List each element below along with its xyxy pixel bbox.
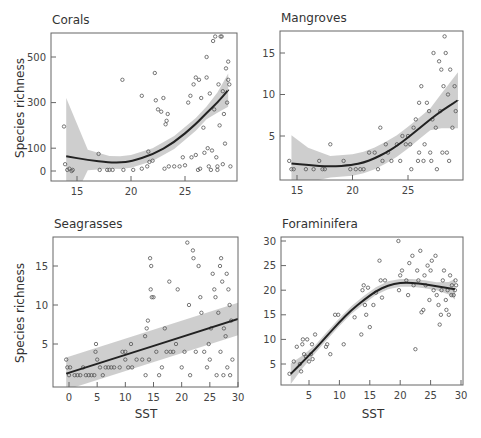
data-point [435,293,438,296]
data-point [397,289,400,292]
data-point [206,147,209,150]
data-point [188,374,191,377]
data-point [442,85,445,88]
data-point [414,348,417,351]
data-point [301,343,304,346]
y-tick-label: 30 [263,236,276,247]
data-point [213,288,216,291]
fit-line [66,319,238,374]
data-point [399,274,402,277]
data-point [215,156,218,159]
data-point [353,316,356,319]
data-point [164,123,167,126]
x-axis-label-right: SST [362,407,385,421]
data-point [449,68,452,71]
data-point [361,289,364,292]
data-point [435,168,438,171]
data-point [162,96,165,99]
data-point [301,338,304,341]
y-tick-label: 25 [263,260,276,271]
y-tick-label: 500 [27,52,46,63]
data-point [166,112,169,115]
data-point [227,60,230,63]
data-point [200,311,203,314]
y-axis-label-bottom: Species richness [13,263,27,363]
confidence-band [66,73,228,214]
data-point [366,286,369,289]
y-tick-label: 10 [263,334,276,345]
data-point [218,264,221,267]
data-point [379,279,382,282]
x-tick-label: 30 [232,392,245,403]
data-point [362,284,365,287]
data-point [148,257,151,260]
y-tick-label: 20 [263,285,276,296]
x-tick-label: 20 [394,390,407,401]
data-point [208,358,211,361]
data-point [399,159,402,162]
data-point [205,76,208,79]
data-point [441,151,444,154]
data-point [417,151,420,154]
x-tick-label: 10 [333,390,346,401]
data-point [411,254,414,257]
x-tick-label: 5 [306,390,312,401]
data-point [140,94,143,97]
x-tick-label: 20 [175,392,188,403]
data-point [217,83,220,86]
data-point [62,125,65,128]
data-point [313,333,316,336]
y-tick-label: 5 [269,131,275,142]
data-point [379,126,382,129]
data-point [408,261,411,264]
confidence-band [291,72,458,191]
data-point [222,374,225,377]
plot-area [288,239,458,384]
panel-title: Mangroves [281,11,347,25]
data-point [429,151,432,154]
x-tick-label: 25 [424,390,437,401]
data-point [191,249,194,252]
data-point [156,108,159,111]
x-tick-label: 15 [363,390,376,401]
data-point [360,333,363,336]
data-point [440,68,443,71]
data-point [160,366,163,369]
data-point [423,274,426,277]
data-point [416,159,419,162]
data-point [224,67,227,70]
data-point [363,303,366,306]
data-point [441,279,444,282]
data-point [437,303,440,306]
data-point [211,39,214,42]
data-point [225,272,228,275]
data-point [219,350,222,353]
data-point [444,298,447,301]
data-point [181,156,184,159]
data-point [372,303,375,306]
y-tick-label: 15 [262,48,275,59]
panel-mangroves: Mangroves15202551015 [262,11,463,196]
data-point [178,165,181,168]
data-point [226,366,229,369]
data-point [383,279,386,282]
data-point [416,269,419,272]
data-point [310,343,313,346]
data-point [400,269,403,272]
x-axis-label-left: SST [135,407,158,421]
data-point [205,55,208,58]
data-point [203,151,206,154]
data-point [443,35,446,38]
data-point [197,78,200,81]
data-point [329,353,332,356]
data-point [288,159,291,162]
data-point [444,51,447,54]
data-point [192,83,195,86]
x-tick-label: 15 [71,186,84,197]
data-point [187,303,190,306]
data-point [442,269,445,272]
panel-foraminifera: Foraminifera5101520253051015202530 [263,217,467,401]
data-point [146,319,149,322]
data-point [194,153,197,156]
data-point [380,296,383,299]
